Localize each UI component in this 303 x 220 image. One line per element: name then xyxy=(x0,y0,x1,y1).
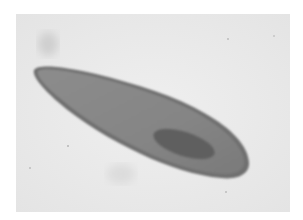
micrograph-frame xyxy=(16,14,290,212)
micrograph-image xyxy=(16,14,290,212)
smudge xyxy=(38,32,58,56)
